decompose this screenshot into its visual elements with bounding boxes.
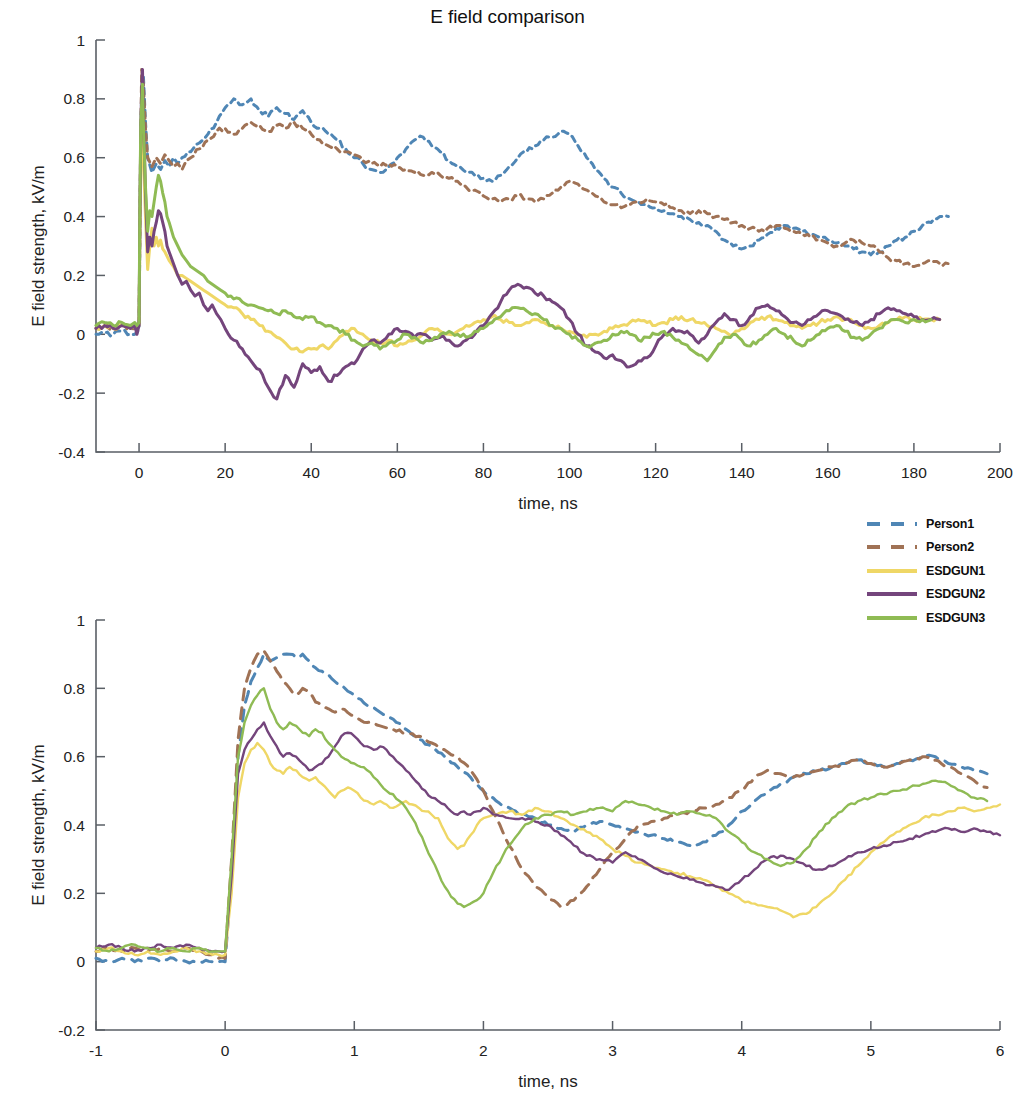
solid-line-icon [866, 565, 918, 577]
x-tick-label: 1 [350, 1042, 359, 1059]
y-tick-label: 0.8 [63, 680, 85, 697]
plot-area-bottom: -0.200.20.40.60.81-10123456time, nsE fie… [0, 580, 1015, 1098]
legend-item-person1[interactable]: Person1 [866, 512, 1015, 536]
y-tick-label: 1 [76, 612, 85, 629]
figure-root: E field comparison -0.4-0.200.20.40.60.8… [0, 0, 1015, 1098]
solid-line-icon [866, 588, 918, 600]
x-tick-label: 6 [996, 1042, 1005, 1059]
y-tick-label: 0.8 [63, 90, 85, 107]
legend-item-label: Person2 [926, 540, 974, 554]
y-tick-label: 0.2 [63, 267, 85, 284]
x-tick-label: 160 [815, 464, 841, 481]
chart-panel-top: E field comparison -0.4-0.200.20.40.60.8… [0, 0, 1015, 520]
series-line-esdgun2 [96, 723, 1000, 953]
x-tick-label: 40 [303, 464, 321, 481]
legend-item-person2[interactable]: Person2 [866, 536, 1015, 560]
x-tick-label: 120 [643, 464, 669, 481]
y-tick-label: 0 [76, 953, 85, 970]
chart-legend: Person1Person2ESDGUN1ESDGUN2ESDGUN3 [866, 512, 1015, 630]
x-axis-label: time, ns [518, 1072, 578, 1091]
x-tick-label: 200 [987, 464, 1013, 481]
y-tick-label: 0.4 [63, 208, 85, 225]
x-tick-label: 20 [217, 464, 235, 481]
x-tick-label: 0 [221, 1042, 230, 1059]
legend-item-esdgun2[interactable]: ESDGUN2 [866, 583, 1015, 607]
y-axis-label: E field strength, kV/m [29, 165, 48, 327]
x-tick-label: 4 [737, 1042, 746, 1059]
dashed-line-icon [866, 541, 918, 553]
x-tick-label: -1 [89, 1042, 103, 1059]
legend-item-esdgun3[interactable]: ESDGUN3 [866, 606, 1015, 630]
x-tick-label: 3 [608, 1042, 617, 1059]
series-line-person1 [96, 75, 948, 336]
y-tick-label: 0.6 [63, 748, 85, 765]
legend-item-label: ESDGUN1 [926, 564, 985, 578]
legend-item-label: Person1 [926, 517, 974, 531]
x-tick-label: 2 [479, 1042, 488, 1059]
x-axis-label: time, ns [518, 494, 578, 513]
y-tick-label: 1 [76, 32, 85, 49]
legend-item-label: ESDGUN2 [926, 587, 985, 601]
legend-item-esdgun1[interactable]: ESDGUN1 [866, 559, 1015, 583]
x-tick-label: 140 [729, 464, 755, 481]
x-tick-label: 0 [135, 464, 144, 481]
legend-item-label: ESDGUN3 [926, 611, 985, 625]
y-tick-label: 0.4 [63, 817, 85, 834]
y-axis-label: E field strength, kV/m [29, 744, 48, 906]
x-tick-label: 5 [867, 1042, 876, 1059]
x-tick-label: 80 [475, 464, 493, 481]
dashed-line-icon [866, 518, 918, 530]
y-tick-label: 0 [76, 326, 85, 343]
plot-area-top: -0.4-0.200.20.40.60.81020406080100120140… [0, 0, 1015, 520]
y-tick-label: -0.2 [58, 385, 85, 402]
y-tick-label: -0.4 [58, 444, 85, 461]
chart-panel-bottom: E field comparison (zoom-in to first pea… [0, 580, 1015, 1098]
x-tick-label: 60 [389, 464, 407, 481]
x-tick-label: 180 [901, 464, 927, 481]
y-tick-label: -0.2 [58, 1022, 85, 1039]
y-tick-label: 0.2 [63, 885, 85, 902]
x-tick-label: 100 [557, 464, 583, 481]
y-tick-label: 0.6 [63, 149, 85, 166]
solid-line-icon [866, 612, 918, 624]
